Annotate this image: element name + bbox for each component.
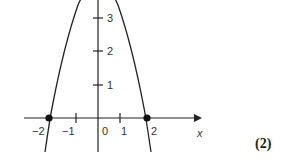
root-point-left (45, 114, 52, 121)
y-tick-label-1: 1 (107, 79, 113, 91)
x-axis-arrow-icon (194, 114, 202, 122)
x-tick-label-0: 0 (102, 125, 108, 137)
x-tick-label-1: 1 (121, 125, 127, 137)
root-point-right (143, 114, 150, 121)
part-label: (2) (255, 136, 271, 152)
y-tick-label-3: 3 (107, 12, 113, 24)
y-tick-label-2: 2 (107, 45, 113, 57)
x-tick-label-minus-2: −2 (32, 125, 45, 137)
x-axis-label: x (196, 127, 203, 139)
parabola-chart: −2 −1 0 1 2 x 1 2 3 (0, 0, 287, 160)
x-tick-label-2: 2 (151, 125, 157, 137)
x-tick-label-minus-1: −1 (62, 125, 75, 137)
